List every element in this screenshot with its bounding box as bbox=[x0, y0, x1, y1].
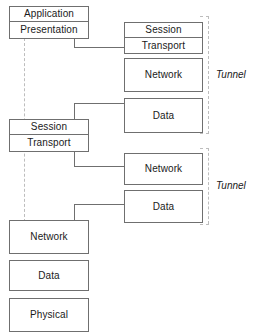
layer-box-application: Application bbox=[9, 6, 89, 22]
connector-presentation-to-transport-horizontal bbox=[74, 47, 125, 48]
tunnel-bracket-2-line bbox=[208, 148, 209, 224]
tunneling-layer-diagram: Tunnel Tunnel Application Presentation S… bbox=[0, 0, 255, 335]
connector-transport-to-network2-horizontal bbox=[74, 166, 125, 167]
layer-box-network-tunnel1: Network bbox=[124, 58, 203, 92]
connector-data1-to-session-horizontal bbox=[74, 103, 125, 104]
tunnel-bracket-2-top-tick bbox=[200, 148, 209, 149]
connector-data2-to-network3-vertical bbox=[74, 204, 75, 221]
layer-box-data-left: Data bbox=[9, 260, 89, 291]
tunnel-bracket-1-bottom-tick bbox=[200, 133, 209, 134]
layer-box-data-tunnel2: Data bbox=[124, 190, 203, 223]
layer-box-physical-left: Physical bbox=[9, 298, 89, 332]
tunnel-label-1: Tunnel bbox=[216, 69, 246, 80]
layer-box-data-tunnel1: Data bbox=[124, 98, 203, 133]
tunnel-label-2: Tunnel bbox=[216, 180, 246, 191]
tunnel-bracket-2-bottom-tick bbox=[200, 224, 209, 225]
layer-box-session-tunnel1: Session bbox=[124, 22, 203, 38]
connector-data1-to-session-vertical bbox=[74, 103, 75, 120]
connector-transport-to-network2-vertical bbox=[74, 152, 75, 167]
layer-box-transport-tunnel1: Transport bbox=[124, 38, 203, 54]
connector-data2-to-network3-horizontal bbox=[74, 204, 125, 205]
layer-box-network-left: Network bbox=[9, 220, 89, 254]
tunnel-bracket-1-top-tick bbox=[200, 16, 209, 17]
layer-box-transport-left: Transport bbox=[9, 135, 89, 152]
layer-box-presentation: Presentation bbox=[9, 22, 89, 39]
layer-box-network-tunnel2: Network bbox=[124, 153, 203, 185]
layer-box-session-left: Session bbox=[9, 119, 89, 135]
tunnel-bracket-1-line bbox=[208, 16, 209, 134]
